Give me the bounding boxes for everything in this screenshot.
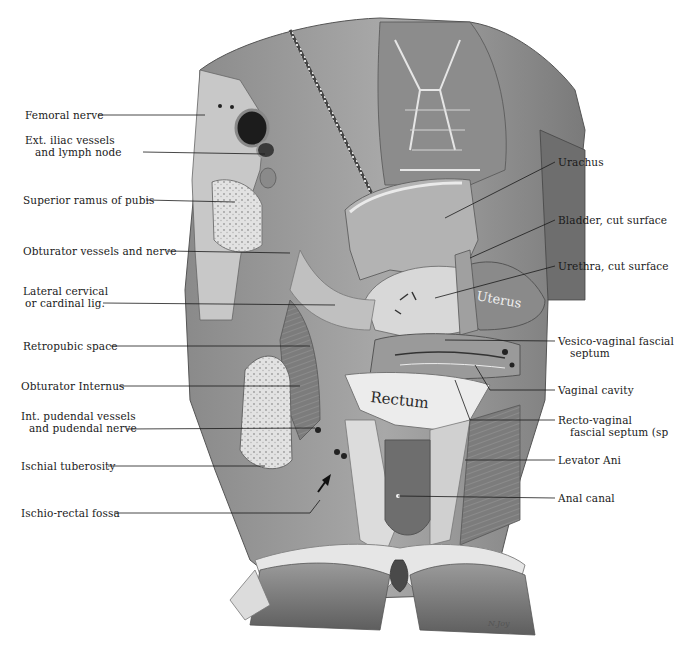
label-anal-canal: Anal canal [558,492,615,504]
ext-iliac-artery [236,110,268,146]
label-ischio-rectal-fossa: Ischio-rectal fossa [21,507,120,519]
label-vesico-vaginal-septum: Vesico-vaginal fascial septum [558,335,674,359]
label-ext-iliac-vessels: Ext. iliac vessels and lymph node [25,134,122,158]
label-femoral-nerve: Femoral nerve [25,109,104,121]
ischial-tuberosity-bone [240,356,292,469]
left-thigh [250,563,390,630]
artist-signature: N.Joy [487,619,510,628]
label-obturator-internus: Obturator Internus [21,380,125,392]
label-urethra-cut-surface: Urethra, cut surface [558,260,669,272]
label-vaginal-cavity: Vaginal cavity [558,384,634,396]
label-obturator-vessels-nerve: Obturator vessels and nerve [23,245,177,257]
label-int-pudendal-vessels: Int. pudendal vessels and pudendal nerve [21,410,137,434]
label-superior-ramus-pubis: Superior ramus of pubis [23,194,154,206]
anal-canal [385,440,430,535]
label-levator-ani: Levator Ani [558,454,621,466]
lymph-node [260,168,276,188]
label-ischial-tuberosity: Ischial tuberosity [21,460,115,472]
right-thigh [410,564,535,635]
label-bladder-cut-surface: Bladder, cut surface [558,214,667,226]
label-retropubic-space: Retropubic space [23,340,118,352]
label-lateral-cervical-ligament: Lateral cervical or cardinal lig. [23,285,108,309]
label-urachus: Urachus [558,156,604,168]
label-recto-vaginal-septum: Recto-vaginal fascial septum (sp [558,414,668,438]
